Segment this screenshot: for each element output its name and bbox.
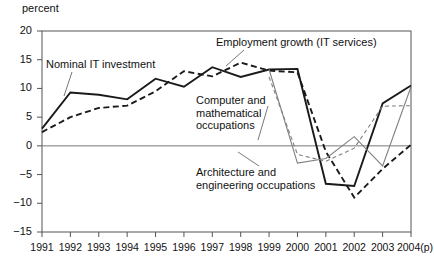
leader-line [226, 50, 244, 66]
y-tick-label: 20 [4, 25, 32, 36]
y-tick-label: 5 [4, 111, 32, 122]
series-line [269, 69, 411, 165]
x-axis-ticks [42, 232, 411, 237]
y-tick-label: −15 [4, 226, 32, 237]
y-tick-label: −5 [4, 169, 32, 180]
leader-line [238, 152, 259, 166]
annotation-architecture-engineering-occupations: Architecture and engineering occupations [196, 166, 315, 191]
y-tick-label: 15 [4, 54, 32, 65]
series-line [269, 77, 411, 161]
y-axis-ticks [37, 31, 42, 232]
annotation-computer-mathematical-occupations: Computer and mathematical occupations [196, 94, 266, 132]
y-tick-label: 0 [4, 140, 32, 151]
annotation-employment-growth: Employment growth (IT services) [216, 36, 377, 49]
chart-container: percent 20151050−5−10−15 199119921993199… [0, 0, 434, 272]
y-tick-label: 10 [4, 82, 32, 93]
annotation-nominal-it-investment: Nominal IT investment [46, 58, 155, 71]
y-tick-label: −10 [4, 197, 32, 208]
x-tick-label: 2004(p) [388, 242, 434, 253]
